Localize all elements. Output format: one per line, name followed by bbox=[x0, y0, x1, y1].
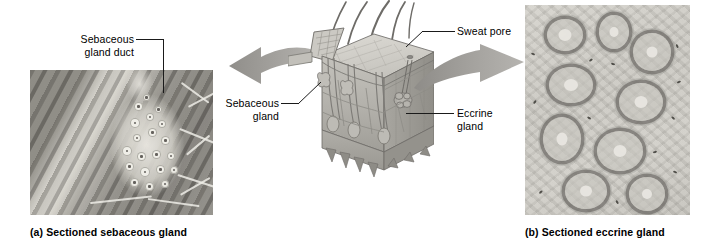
tubule-lumen bbox=[564, 79, 578, 91]
stromal-nucleus bbox=[531, 52, 536, 56]
sebocyte-vacuole bbox=[137, 152, 146, 161]
eccrine-tubule bbox=[565, 173, 607, 209]
tubule-lumen bbox=[557, 133, 568, 146]
sebocyte-vacuole bbox=[130, 178, 139, 187]
sebocyte-vacuole bbox=[125, 162, 134, 171]
micrograph-panel-a bbox=[30, 70, 213, 215]
leader-line-sebaceous-duct-vertical bbox=[163, 39, 164, 93]
micrograph-panel-b bbox=[525, 5, 690, 215]
caption-panel-a: (a) Sectioned sebaceous gland bbox=[30, 226, 187, 238]
sebocyte-vacuole bbox=[170, 166, 178, 174]
sebocyte-vacuole bbox=[130, 118, 140, 128]
connective-tissue-strand bbox=[90, 196, 152, 204]
skin-glands-figure: Sebaceous gland duct (a) Sectioned sebac… bbox=[0, 0, 710, 247]
stromal-nucleus bbox=[653, 151, 657, 154]
sebocyte-vacuole bbox=[155, 106, 162, 113]
leader-line-eccrine-gland bbox=[406, 113, 454, 114]
tubule-lumen bbox=[647, 47, 658, 58]
leader-line-sweat-pore-horizontal bbox=[422, 31, 455, 32]
tubule-lumen bbox=[610, 27, 619, 37]
sebocyte-vacuole bbox=[158, 120, 166, 128]
eccrine-tubule bbox=[597, 131, 643, 171]
caption-panel-b: (b) Sectioned eccrine gland bbox=[525, 226, 665, 238]
sebocyte-vacuole bbox=[122, 146, 132, 156]
eccrine-tubule bbox=[543, 117, 581, 161]
arrow-to-panel-b bbox=[412, 44, 528, 92]
connective-tissue-strand bbox=[148, 198, 200, 207]
stromal-nucleus bbox=[671, 116, 676, 120]
sebocyte-vacuole bbox=[134, 102, 143, 111]
tubule-lumen bbox=[614, 145, 627, 157]
stromal-nucleus bbox=[677, 80, 682, 84]
sebocyte-vacuole bbox=[133, 134, 141, 142]
sebocyte-vacuole bbox=[146, 113, 154, 121]
sebocyte-vacuole bbox=[161, 136, 170, 145]
sebocyte-vacuole bbox=[156, 165, 165, 174]
leader-line-sebaceous-gland-diagonal bbox=[298, 82, 322, 105]
connective-tissue-strand bbox=[186, 135, 210, 155]
stromal-nucleus bbox=[533, 100, 537, 105]
stromal-nucleus bbox=[589, 58, 594, 62]
stromal-nucleus bbox=[587, 116, 592, 120]
leader-line-sebaceous-gland bbox=[281, 103, 299, 104]
stromal-nucleus bbox=[673, 170, 678, 174]
sebocyte-vacuole bbox=[140, 167, 150, 177]
label-sebaceous-gland: Sebaceous gland bbox=[203, 97, 279, 122]
tubule-lumen bbox=[580, 186, 592, 197]
sebocyte-vacuole bbox=[152, 150, 161, 159]
sebocyte-vacuole bbox=[145, 182, 154, 191]
eccrine-tubule bbox=[629, 177, 665, 211]
stromal-nucleus bbox=[675, 44, 679, 49]
sebocyte-vacuole bbox=[143, 94, 150, 101]
sebocyte-vacuole bbox=[148, 128, 157, 137]
tubule-lumen bbox=[559, 29, 572, 41]
eccrine-tubule bbox=[547, 19, 583, 51]
sebocyte-vacuole bbox=[167, 152, 175, 160]
tubule-lumen bbox=[642, 189, 652, 199]
eccrine-tubule bbox=[633, 33, 671, 71]
label-sebaceous-gland-duct: Sebaceous gland duct bbox=[56, 33, 134, 58]
stromal-nucleus bbox=[539, 190, 544, 194]
stromal-nucleus bbox=[611, 63, 615, 66]
eccrine-tubule bbox=[599, 15, 629, 49]
eccrine-tubule bbox=[549, 67, 593, 103]
eccrine-tubule bbox=[619, 83, 663, 121]
leader-line-sebaceous-duct-horizontal bbox=[136, 39, 164, 40]
tubule-lumen bbox=[635, 96, 648, 108]
epidermis-strip bbox=[288, 52, 312, 66]
stromal-nucleus bbox=[615, 200, 619, 205]
sebocyte-vacuole bbox=[161, 180, 169, 188]
